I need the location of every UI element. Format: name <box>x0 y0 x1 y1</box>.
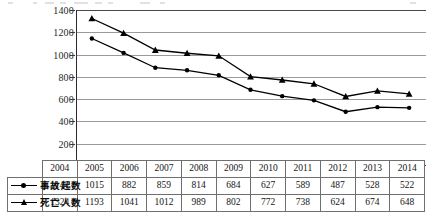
table-header-year: 2009 <box>216 161 251 178</box>
table-cell: 772 <box>251 195 286 212</box>
table-row: 事故起数 11441015882859814684627589487528522 <box>8 178 425 195</box>
table-header-year: 2006 <box>112 161 147 178</box>
y-tick-label: 800 <box>6 73 74 83</box>
table-header-year: 2007 <box>147 161 182 178</box>
line-chart: 1400 1200 1000 800 600 400 200 0 <box>0 8 429 168</box>
series-2-path <box>88 15 412 99</box>
table-header-year: 2012 <box>320 161 355 178</box>
table-header-row: 2004200520062007200820092010201120122013… <box>8 161 425 178</box>
y-axis: 1400 1200 1000 800 600 400 200 0 <box>0 10 74 166</box>
table-cell: 528 <box>355 178 390 195</box>
table-corner-cell <box>8 161 43 178</box>
table-header-year: 2014 <box>390 161 425 178</box>
data-point-triangle <box>120 30 127 36</box>
data-point-dot <box>312 98 316 102</box>
table-cell: 1193 <box>77 195 112 212</box>
table-header-year: 2008 <box>181 161 216 178</box>
triangle-line-marker-icon <box>11 198 37 208</box>
table-cell: 1041 <box>112 195 147 212</box>
data-point-dot <box>407 106 411 110</box>
table-cell: 1012 <box>147 195 182 212</box>
table-header-year: 2011 <box>286 161 321 178</box>
table-cell: 522 <box>390 178 425 195</box>
data-point-dot <box>280 94 284 98</box>
table-cell: 882 <box>112 178 147 195</box>
data-point-triangle <box>88 15 95 21</box>
table-cell: 859 <box>147 178 182 195</box>
y-tick-label: 1200 <box>6 28 74 38</box>
table-cell: 989 <box>181 195 216 212</box>
table-header-year: 2013 <box>355 161 390 178</box>
data-point-dot <box>185 68 189 72</box>
table-header-year: 2005 <box>77 161 112 178</box>
data-point-dot <box>121 51 125 55</box>
data-table: 2004200520062007200820092010201120122013… <box>7 160 425 212</box>
table-cell: 589 <box>286 178 321 195</box>
table-cell: 627 <box>251 178 286 195</box>
y-tick-label: 400 <box>6 117 74 127</box>
legend-cell-series-2: 死亡人数 <box>8 195 43 212</box>
table-cell: 802 <box>216 195 251 212</box>
table-cell: 684 <box>216 178 251 195</box>
legend-cell-series-1: 事故起数 <box>8 178 43 195</box>
table-header-year: 2010 <box>251 161 286 178</box>
data-point-dot <box>343 110 347 114</box>
data-point-dot <box>90 36 94 40</box>
y-tick-label: 1400 <box>6 6 74 16</box>
y-tick-label: 1000 <box>6 51 74 61</box>
data-point-dot <box>375 105 379 109</box>
y-tick-label: 200 <box>6 140 74 150</box>
series-plot <box>76 10 425 166</box>
circle-line-marker-icon <box>11 181 37 191</box>
table-row: 死亡人数 13241193104110129898027727386246746… <box>8 195 425 212</box>
y-tick-label: 600 <box>6 95 74 105</box>
table-cell: 814 <box>181 178 216 195</box>
table-header-year: 2004 <box>42 161 77 178</box>
data-point-dot <box>248 88 252 92</box>
data-point-dot <box>153 66 157 70</box>
data-point-dot <box>217 73 221 77</box>
table-cell: 487 <box>320 178 355 195</box>
table-cell: 738 <box>286 195 321 212</box>
table-cell: 674 <box>355 195 390 212</box>
table-cell: 624 <box>320 195 355 212</box>
table-cell: 1015 <box>77 178 112 195</box>
table-cell: 648 <box>390 195 425 212</box>
